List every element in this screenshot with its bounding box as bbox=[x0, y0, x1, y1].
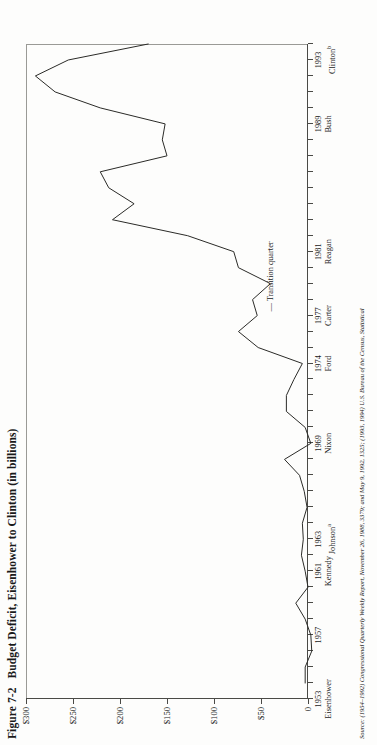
x-tick bbox=[308, 506, 313, 507]
x-tick bbox=[308, 187, 313, 188]
x-tick-label-1989: 1989Bush bbox=[314, 115, 334, 132]
source-label: Source: bbox=[358, 719, 365, 739]
x-tick bbox=[308, 331, 313, 332]
x-label-year: 1993 bbox=[314, 46, 324, 74]
x-tick bbox=[308, 394, 313, 395]
x-tick bbox=[308, 602, 313, 603]
y-tick-label: $50 bbox=[256, 707, 266, 720]
rotated-figure-canvas: Figure 7-2Budget Deficit, Eisenhower to … bbox=[0, 0, 377, 745]
x-label-year: 1977 bbox=[314, 305, 324, 326]
y-tick bbox=[167, 699, 168, 704]
x-tick bbox=[308, 315, 313, 316]
x-tick bbox=[308, 59, 313, 60]
y-tick bbox=[214, 699, 215, 704]
x-label-president: Kennedy bbox=[324, 556, 334, 586]
y-tick bbox=[120, 699, 121, 704]
x-label-year: 1981 bbox=[314, 239, 324, 264]
transition-quarter-annotation: — Transition quarter bbox=[266, 241, 275, 311]
y-tick-label: $200 bbox=[115, 707, 125, 724]
x-tick-label-1974: 1974Ford bbox=[314, 355, 334, 372]
x-label-year: 1974 bbox=[314, 355, 324, 372]
x-tick bbox=[308, 75, 313, 76]
x-tick bbox=[308, 155, 313, 156]
x-tick bbox=[308, 490, 313, 491]
y-tick-label: $300 bbox=[21, 707, 31, 724]
x-tick bbox=[308, 139, 313, 140]
x-tick bbox=[308, 522, 313, 523]
chart-plot-area: 0$50$100$150$200$250$300 1953Eisenhower1… bbox=[26, 44, 308, 699]
x-tick bbox=[308, 682, 313, 683]
x-label-year: 1963 bbox=[314, 524, 324, 554]
x-tick bbox=[308, 379, 313, 380]
x-tick bbox=[308, 570, 313, 571]
x-tick bbox=[308, 283, 313, 284]
x-tick bbox=[308, 458, 313, 459]
y-tick-label: $100 bbox=[209, 707, 219, 724]
x-tick bbox=[308, 666, 313, 667]
x-label-president: Bush bbox=[324, 115, 334, 132]
x-tick bbox=[308, 251, 313, 252]
y-tick-label: $150 bbox=[162, 707, 172, 724]
x-label-president: Carter bbox=[324, 305, 334, 326]
x-tick bbox=[308, 171, 313, 172]
x-label-president: Clintonb bbox=[324, 46, 338, 74]
x-tick bbox=[308, 586, 313, 587]
x-tick bbox=[308, 538, 313, 539]
x-tick bbox=[308, 219, 313, 220]
x-label-year: 1989 bbox=[314, 115, 324, 132]
x-label-president: Eisenhower bbox=[324, 679, 334, 719]
x-tick-label-1969: 1969Nixon bbox=[314, 433, 334, 454]
figure-page: Figure 7-2Budget Deficit, Eisenhower to … bbox=[0, 0, 377, 745]
x-tick-label-1963: 1963Johnsona bbox=[314, 524, 338, 554]
x-label-year: 1969 bbox=[314, 433, 324, 454]
deficit-line-series bbox=[26, 44, 308, 699]
figure-title: Figure 7-2Budget Deficit, Eisenhower to … bbox=[6, 429, 18, 740]
y-tick-label: 0 bbox=[303, 707, 313, 711]
source-text: (1954–1992) Congressional Quarterly Week… bbox=[358, 309, 365, 718]
x-tick bbox=[308, 618, 313, 619]
x-tick bbox=[308, 426, 313, 427]
y-tick bbox=[26, 699, 27, 704]
x-tick bbox=[308, 698, 313, 699]
x-tick-label-1957: 1957 bbox=[314, 627, 324, 644]
x-tick-label-1953: 1953Eisenhower bbox=[314, 679, 334, 719]
x-tick bbox=[308, 107, 313, 108]
y-tick-label: $250 bbox=[68, 707, 78, 724]
x-tick bbox=[308, 410, 313, 411]
x-tick bbox=[308, 363, 313, 364]
x-tick bbox=[308, 203, 313, 204]
x-tick bbox=[308, 299, 313, 300]
x-tick-label-1993: 1993Clintonb bbox=[314, 46, 338, 74]
x-tick bbox=[308, 91, 313, 92]
x-tick bbox=[308, 474, 313, 475]
x-label-president: Reagan bbox=[324, 239, 334, 264]
x-tick-label-1977: 1977Carter bbox=[314, 305, 334, 326]
x-label-year: 1953 bbox=[314, 679, 324, 719]
x-tick bbox=[308, 43, 313, 44]
x-tick-label-1981: 1981Reagan bbox=[314, 239, 334, 264]
x-label-year: 1957 bbox=[314, 627, 324, 644]
x-tick-label-1961: 1961Kennedy bbox=[314, 556, 334, 586]
y-tick bbox=[261, 699, 262, 704]
figure-title-text: Budget Deficit, Eisenhower to Clinton (i… bbox=[6, 429, 18, 679]
x-tick bbox=[308, 123, 313, 124]
x-tick bbox=[308, 554, 313, 555]
x-label-year: 1961 bbox=[314, 556, 324, 586]
y-tick bbox=[73, 699, 74, 704]
x-tick bbox=[308, 267, 313, 268]
x-tick bbox=[308, 235, 313, 236]
figure-source: Source: (1954–1992) Congressional Quarte… bbox=[358, 309, 365, 740]
x-label-president: Ford bbox=[324, 355, 334, 372]
x-label-president: Johnsona bbox=[324, 524, 338, 554]
x-tick bbox=[308, 347, 313, 348]
figure-number: Figure 7-2 bbox=[6, 687, 18, 739]
x-label-president: Nixon bbox=[324, 433, 334, 454]
y-tick bbox=[308, 699, 309, 704]
